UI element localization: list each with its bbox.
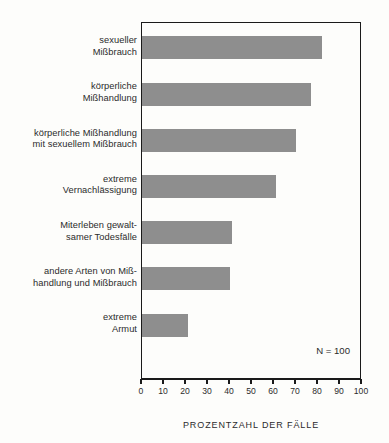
sample-size-annotation: N = 100 [316,345,350,356]
x-tick-mark-90 [338,379,339,384]
x-tick-label-20: 20 [180,386,190,396]
category-label-2: körperliche Mißhandlungmit sexuellem Miß… [0,128,137,151]
category-axis-labels: sexuellerMißbrauchkörperlicheMißhandlung… [0,22,137,379]
category-label-line: sexueller [0,35,137,47]
bar-4 [142,221,232,244]
category-label-line: mit sexuellem Mißbrauch [0,139,137,151]
x-tick-mark-20 [184,379,185,384]
category-label-4: Miterleben gewalt-samer Todesfälle [0,220,137,243]
x-tick-mark-40 [228,379,229,384]
x-tick-label-100: 100 [354,386,368,396]
bar-3 [142,175,276,198]
category-label-1: körperlicheMißhandlung [0,81,137,104]
x-tick-label-0: 0 [139,386,144,396]
bar-6 [142,314,188,337]
category-label-line: Mißhandlung [0,93,137,105]
bar-1 [142,83,311,106]
category-label-0: sexuellerMißbrauch [0,35,137,58]
x-tick-mark-10 [162,379,163,384]
x-tick-label-90: 90 [334,386,344,396]
x-tick-label-80: 80 [312,386,322,396]
x-tick-mark-60 [272,379,273,384]
category-label-line: extreme [0,174,137,186]
x-axis-title: PROZENTZAHL DER FÄLLE [141,420,361,430]
x-tick-label-70: 70 [290,386,300,396]
x-axis: 0102030405060708090100 [141,379,361,409]
x-tick-label-40: 40 [224,386,234,396]
category-label-line: körperliche [0,81,137,93]
category-label-line: andere Arten von Miß- [0,266,137,278]
x-tick-label-60: 60 [268,386,278,396]
x-tick-label-50: 50 [246,386,256,396]
category-label-line: Armut [0,324,137,336]
category-label-6: extremeArmut [0,312,137,335]
category-label-line: körperliche Mißhandlung [0,128,137,140]
category-label-line: samer Todesfälle [0,232,137,244]
bar-0 [142,36,322,59]
x-tick-mark-100 [360,379,361,384]
x-tick-label-30: 30 [202,386,212,396]
bar-5 [142,267,230,290]
category-label-line: Mißbrauch [0,47,137,59]
x-tick-mark-80 [316,379,317,384]
bar-2 [142,129,296,152]
x-tick-mark-70 [294,379,295,384]
x-tick-mark-0 [140,379,141,384]
category-label-line: extreme [0,312,137,324]
category-label-line: Vernachlässigung [0,185,137,197]
category-label-line: handlung und Mißbrauch [0,278,137,290]
x-tick-mark-30 [206,379,207,384]
category-label-5: andere Arten von Miß-handlung und Mißbra… [0,266,137,289]
category-label-3: extremeVernachlässigung [0,174,137,197]
x-tick-mark-50 [250,379,251,384]
bars-layer [142,23,360,378]
bar-chart-figure: sexuellerMißbrauchkörperlicheMißhandlung… [0,0,389,443]
plot-area: N = 100 [141,22,361,379]
category-label-line: Miterleben gewalt- [0,220,137,232]
x-tick-label-10: 10 [158,386,168,396]
